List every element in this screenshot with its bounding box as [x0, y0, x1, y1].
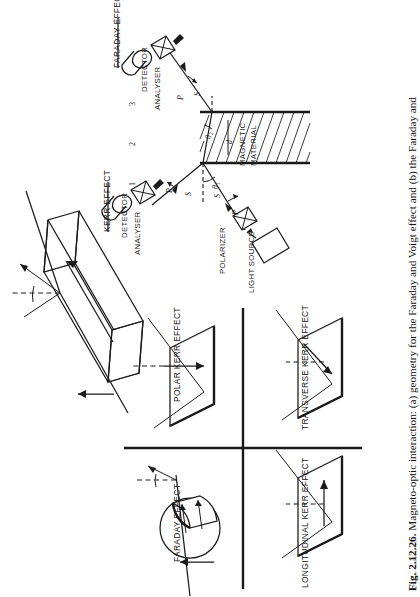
- light-source-label: LIGHT SOURCE: [247, 231, 256, 293]
- figure-caption-second-line: Kerr effects: [410, 6, 417, 591]
- ray-label-transmitted-s: S: [193, 92, 202, 96]
- magnetic-material-line2: MATERIAL: [249, 125, 258, 166]
- panel-b-quadrant-grid: [118, 300, 368, 597]
- polarizer-label: POLARIZER: [218, 227, 227, 274]
- light-source-body: [252, 228, 289, 263]
- quadrant-label-polar-kerr: POLAR KERR EFFECT: [172, 307, 182, 402]
- detector-faraday-label: DETECTOR: [140, 47, 149, 92]
- ray-label-reflected-p: P: [165, 188, 174, 193]
- ray-label-reflected-s: S: [184, 192, 193, 196]
- angle-theta-2-label: θ₂: [204, 132, 213, 139]
- analyser-faraday-label: ANALYSER: [153, 67, 162, 110]
- thickness-d-label: d: [225, 140, 234, 144]
- analyser-faraday-element: [151, 34, 184, 59]
- quadrant-label-transverse-kerr: TRANSVERSE KERR EFFECT: [300, 305, 310, 430]
- field-arrow-lower: [78, 390, 114, 398]
- region-number-2: 2: [128, 142, 137, 146]
- region-number-3: 3: [128, 102, 137, 106]
- quadrant-label-longitudinal-kerr: LONGITUDINAL KERR EFFECT: [300, 458, 310, 588]
- ray-label-incident-p: P: [231, 210, 240, 215]
- angle-theta-1-label: θ₁: [211, 182, 220, 189]
- quadrant-label-faraday: FARADAY EFFECT: [172, 484, 182, 562]
- ray-label-transmitted-p: P: [176, 95, 185, 100]
- faraday-effect-header: FARADAY EFFECT: [112, 0, 122, 68]
- ray-label-incident-s: S: [213, 194, 222, 198]
- magnetic-material-line1: MAGNETIC: [238, 122, 247, 166]
- detector-faraday-element: [122, 46, 155, 75]
